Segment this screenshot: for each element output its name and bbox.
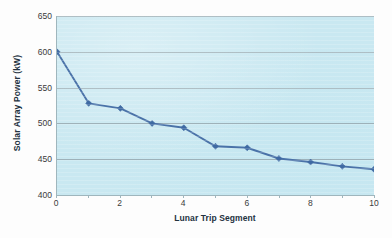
y-tick-label: 650 — [38, 11, 52, 21]
y-axis-title-text: Solar Array Power (kW) — [12, 54, 22, 150]
x-tick-mark — [310, 195, 311, 198]
y-axis-tick-labels: 400450500550600650 — [26, 10, 52, 196]
chart-figure: Solar Array Power (kW) 40045050055060065… — [0, 0, 392, 238]
x-axis-tick-labels: 0246810 — [56, 198, 374, 212]
y-tick-label: 550 — [38, 83, 52, 93]
x-axis-title: Lunar Trip Segment — [56, 213, 374, 223]
data-point-marker: 8, 446 — [308, 159, 314, 165]
x-minor-tick-mark — [279, 196, 280, 198]
series-line-chart: 0, 6001, 5282, 5213, 5004, 4945, 4686, 4… — [57, 16, 374, 195]
x-tick-label: 10 — [369, 198, 378, 208]
x-minor-tick-mark — [151, 196, 152, 198]
data-point-marker: 7, 451 — [276, 155, 282, 161]
x-minor-tick-mark — [342, 196, 343, 198]
x-tick-mark — [56, 195, 57, 198]
x-tick-mark — [247, 195, 248, 198]
data-point-marker: 6, 466 — [244, 145, 250, 151]
x-tick-mark — [374, 195, 375, 198]
data-point-marker: 9, 440 — [339, 163, 345, 169]
x-tick-label: 4 — [181, 198, 186, 208]
y-tick-label: 400 — [38, 190, 52, 200]
x-tick-label: 8 — [308, 198, 313, 208]
x-tick-mark — [183, 195, 184, 198]
x-minor-tick-mark — [88, 196, 89, 198]
x-tick-label: 0 — [54, 198, 59, 208]
y-axis-title: Solar Array Power (kW) — [8, 0, 26, 205]
data-point-marker: 2, 521 — [117, 105, 123, 111]
x-tick-label: 2 — [117, 198, 122, 208]
y-tick-label: 450 — [38, 154, 52, 164]
x-tick-mark — [120, 195, 121, 198]
y-tick-label: 600 — [38, 47, 52, 57]
plot-area: 0, 6001, 5282, 5213, 5004, 4945, 4686, 4… — [56, 16, 374, 195]
x-minor-tick-mark — [215, 196, 216, 198]
y-tick-label: 500 — [38, 118, 52, 128]
data-point-marker: 3, 500 — [149, 120, 155, 126]
series-line — [57, 52, 374, 169]
x-tick-label: 6 — [244, 198, 249, 208]
data-point-marker: 10, 436 — [371, 166, 374, 172]
